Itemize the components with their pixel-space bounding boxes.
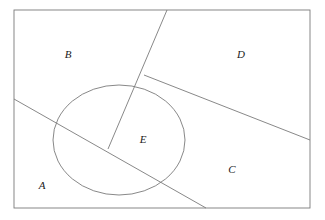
- region-label-c: C: [228, 163, 236, 175]
- region-label-b: B: [65, 48, 72, 60]
- region-label-d: D: [236, 48, 245, 60]
- region-diagram-canvas: A B C D E: [0, 0, 325, 220]
- region-label-e: E: [139, 133, 147, 145]
- figure-container: A B C D E: [0, 0, 325, 220]
- region-label-a: A: [38, 179, 46, 191]
- diagram-background: [0, 0, 325, 220]
